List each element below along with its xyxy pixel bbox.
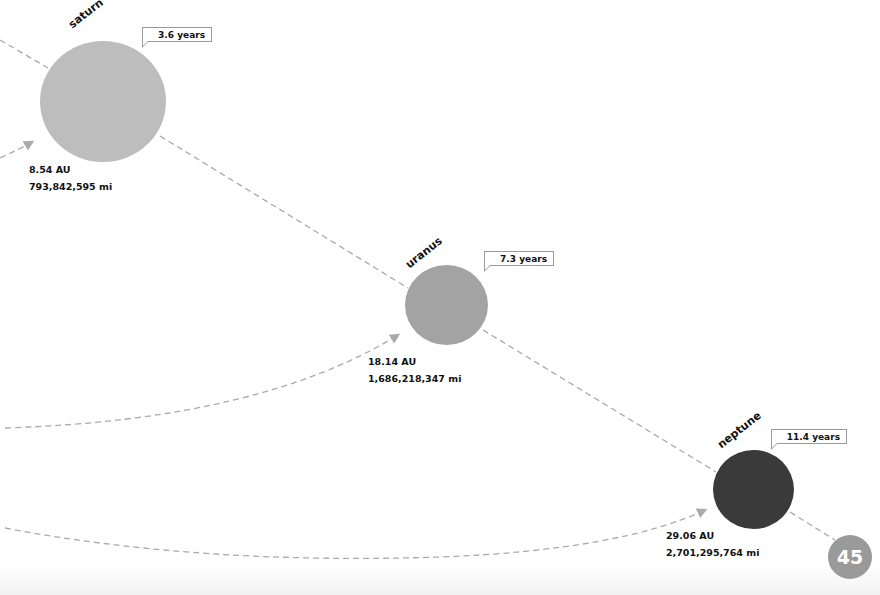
distance-miles-saturn: 793,842,595 mi xyxy=(29,178,112,195)
trajectory-segment xyxy=(160,136,408,288)
distance-label-uranus: 18.14 AU 1,686,218,347 mi xyxy=(368,353,461,387)
distance-au-saturn: 8.54 AU xyxy=(29,161,112,178)
orbital-period-tag-uranus: 7.3 years xyxy=(484,251,554,266)
page-number-badge: 45 xyxy=(828,535,872,579)
distance-arrow-saturn xyxy=(0,142,32,158)
planet-neptune xyxy=(713,450,794,529)
distance-miles-uranus: 1,686,218,347 mi xyxy=(368,370,461,387)
distance-miles-neptune: 2,701,295,764 mi xyxy=(666,544,759,561)
distance-label-neptune: 29.06 AU 2,701,295,764 mi xyxy=(666,527,759,561)
trajectory-segment xyxy=(483,330,716,472)
distance-au-uranus: 18.14 AU xyxy=(368,353,461,370)
trajectory-segment xyxy=(790,512,835,540)
trajectory-segment xyxy=(0,40,48,68)
distance-arrow-uranus xyxy=(5,335,398,428)
distance-arrow-neptune xyxy=(5,510,705,558)
orbital-period-tag-neptune: 11.4 years xyxy=(771,429,847,444)
distance-au-neptune: 29.06 AU xyxy=(666,527,759,544)
orbital-period-neptune: 11.4 years xyxy=(787,432,840,442)
planet-saturn xyxy=(40,41,166,162)
orbital-period-tag-saturn: 3.6 years xyxy=(142,27,212,42)
orbital-period-uranus: 7.3 years xyxy=(500,254,547,264)
orbital-period-saturn: 3.6 years xyxy=(158,30,205,40)
planet-uranus xyxy=(405,265,488,345)
distance-label-saturn: 8.54 AU 793,842,595 mi xyxy=(29,161,112,195)
